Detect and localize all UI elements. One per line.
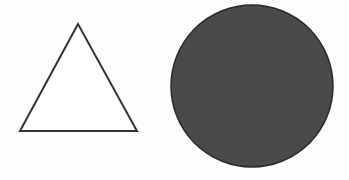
triangle-shape xyxy=(20,24,137,131)
circle-shape xyxy=(171,5,333,167)
diagram-canvas xyxy=(0,0,349,180)
